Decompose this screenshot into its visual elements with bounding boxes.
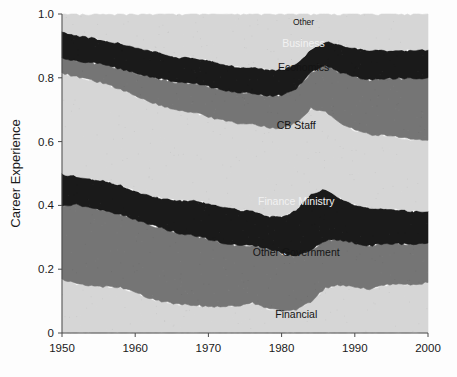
band-label-business: Business	[282, 37, 325, 49]
x-tick-label: 2000	[415, 342, 441, 354]
y-axis-title: Career Experience	[8, 119, 23, 227]
y-tick-label: 0	[48, 327, 54, 339]
band-label-economics: Economics	[278, 61, 329, 73]
band-label-other-government: Other Government	[253, 246, 340, 258]
x-tick-label: 1980	[269, 342, 295, 354]
x-tick-label: 1970	[196, 342, 222, 354]
band-group	[62, 14, 428, 333]
y-tick-label: 0.2	[38, 263, 54, 275]
y-tick-label: 0.4	[38, 199, 55, 211]
y-tick-label: 0.6	[38, 136, 54, 148]
stacked-area-chart: 00.20.40.60.81.0195019601970198019902000…	[0, 0, 457, 377]
band-label-financial: Financial	[275, 308, 317, 320]
chart-figure: 00.20.40.60.81.0195019601970198019902000…	[0, 0, 457, 377]
band-label-finance-ministry: Finance Ministry	[258, 195, 335, 207]
band-label-other: Other	[293, 17, 314, 27]
y-tick-label: 1.0	[38, 8, 54, 20]
x-tick-label: 1960	[122, 342, 148, 354]
band-label-cb-staff: CB Staff	[277, 119, 316, 131]
x-tick-label: 1990	[342, 342, 368, 354]
y-tick-label: 0.8	[38, 72, 54, 84]
x-tick-label: 1950	[49, 342, 75, 354]
